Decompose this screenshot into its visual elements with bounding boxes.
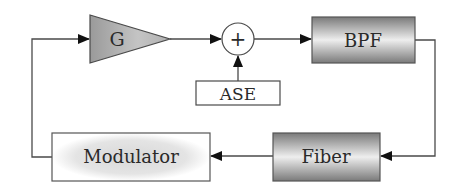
gain-block: G	[90, 15, 170, 63]
ase-label: ASE	[219, 84, 256, 104]
modulator-block: Modulator	[52, 133, 210, 181]
gain-triangle-shape	[90, 15, 170, 63]
bpf-block: BPF	[312, 17, 415, 63]
gain-label: G	[109, 28, 124, 50]
summing-junction: +	[222, 23, 254, 55]
modulator-label: Modulator	[83, 146, 179, 167]
bpf-label: BPF	[344, 30, 382, 51]
fiber-label: Fiber	[301, 146, 350, 167]
ring-laser-diagram: G + ASE BPF Fiber Modulator	[0, 0, 462, 196]
fiber-block: Fiber	[273, 133, 380, 181]
plus-icon: +	[230, 27, 247, 51]
ase-block: ASE	[196, 81, 280, 105]
